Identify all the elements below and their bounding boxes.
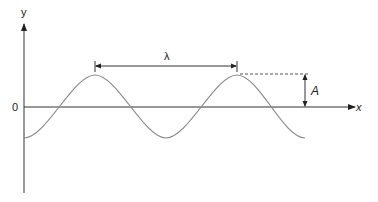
x-axis-label: x: [355, 101, 362, 113]
origin-label: 0: [12, 101, 18, 113]
y-axis-label: y: [21, 6, 27, 18]
amplitude-label: A: [310, 84, 319, 98]
wave-diagram: y x 0 λ A: [0, 0, 378, 202]
wavelength-marker: [95, 61, 237, 72]
wavelength-label: λ: [164, 50, 170, 62]
amplitude-marker: [240, 74, 310, 106]
